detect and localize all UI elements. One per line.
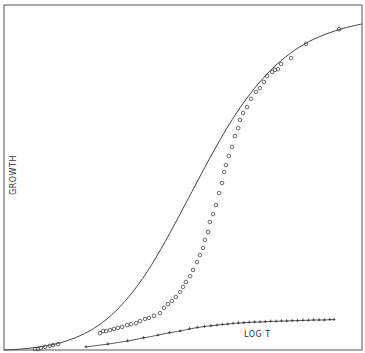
x-axis-label: LOG T — [244, 330, 271, 339]
chart-background — [0, 0, 365, 353]
growth-chart: LOG T GROWTH — [0, 0, 365, 353]
y-axis-label: GROWTH — [9, 155, 18, 195]
